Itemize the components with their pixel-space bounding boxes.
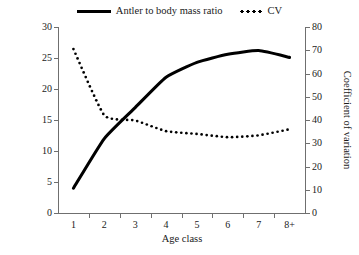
series-dot	[195, 133, 198, 136]
series-dot	[82, 71, 85, 74]
series-dot	[276, 130, 279, 133]
series-dot	[170, 131, 173, 134]
series-dot	[286, 128, 289, 131]
series-dot	[226, 136, 229, 139]
series-dot	[215, 135, 218, 138]
series-dot	[126, 119, 129, 122]
series-dot	[256, 134, 259, 137]
series-dot	[74, 52, 77, 55]
series-dot	[185, 132, 188, 135]
series-dot	[89, 85, 92, 88]
series-dot	[72, 48, 75, 51]
series-dot	[246, 135, 249, 138]
series-dot	[136, 120, 139, 123]
series-dot	[200, 133, 203, 136]
series-dot	[102, 113, 105, 116]
chart-figure: Antler to body mass ratio CV Antler beam…	[0, 0, 359, 255]
series-dot	[116, 118, 119, 121]
series-dot	[271, 131, 274, 134]
series-dot	[80, 66, 83, 69]
series-dot	[155, 127, 158, 130]
series-dot	[231, 136, 234, 139]
series-dot	[78, 62, 81, 65]
series-dot	[205, 134, 208, 137]
series-dot	[190, 132, 193, 135]
series-dot	[106, 116, 109, 119]
chart-plot-area	[0, 0, 359, 255]
series-dot	[91, 90, 94, 93]
series-dot	[95, 99, 98, 102]
series-dot	[180, 131, 183, 134]
series-dot	[121, 118, 124, 121]
series-dot	[281, 129, 284, 132]
series-dot	[131, 119, 134, 122]
series-dot	[150, 125, 153, 128]
series-dot	[251, 135, 254, 138]
series-dot	[241, 135, 244, 138]
series-dot	[76, 57, 79, 60]
series-dot	[99, 108, 102, 111]
series-line-antler-ratio	[73, 51, 289, 189]
series-dot	[97, 104, 100, 107]
series-dot	[145, 123, 148, 126]
series-dot	[261, 133, 264, 136]
series-line-cv	[72, 48, 289, 139]
series-dot	[86, 80, 89, 83]
series-dot	[111, 117, 114, 120]
series-dot	[160, 128, 163, 131]
series-dot	[84, 76, 87, 79]
series-dot	[93, 94, 96, 97]
series-dot	[236, 136, 239, 139]
series-dot	[175, 131, 178, 134]
series-dot	[141, 121, 144, 124]
series-dot	[210, 134, 213, 137]
series-dot	[221, 135, 224, 138]
series-dot	[266, 132, 269, 135]
series-dot	[165, 130, 168, 133]
